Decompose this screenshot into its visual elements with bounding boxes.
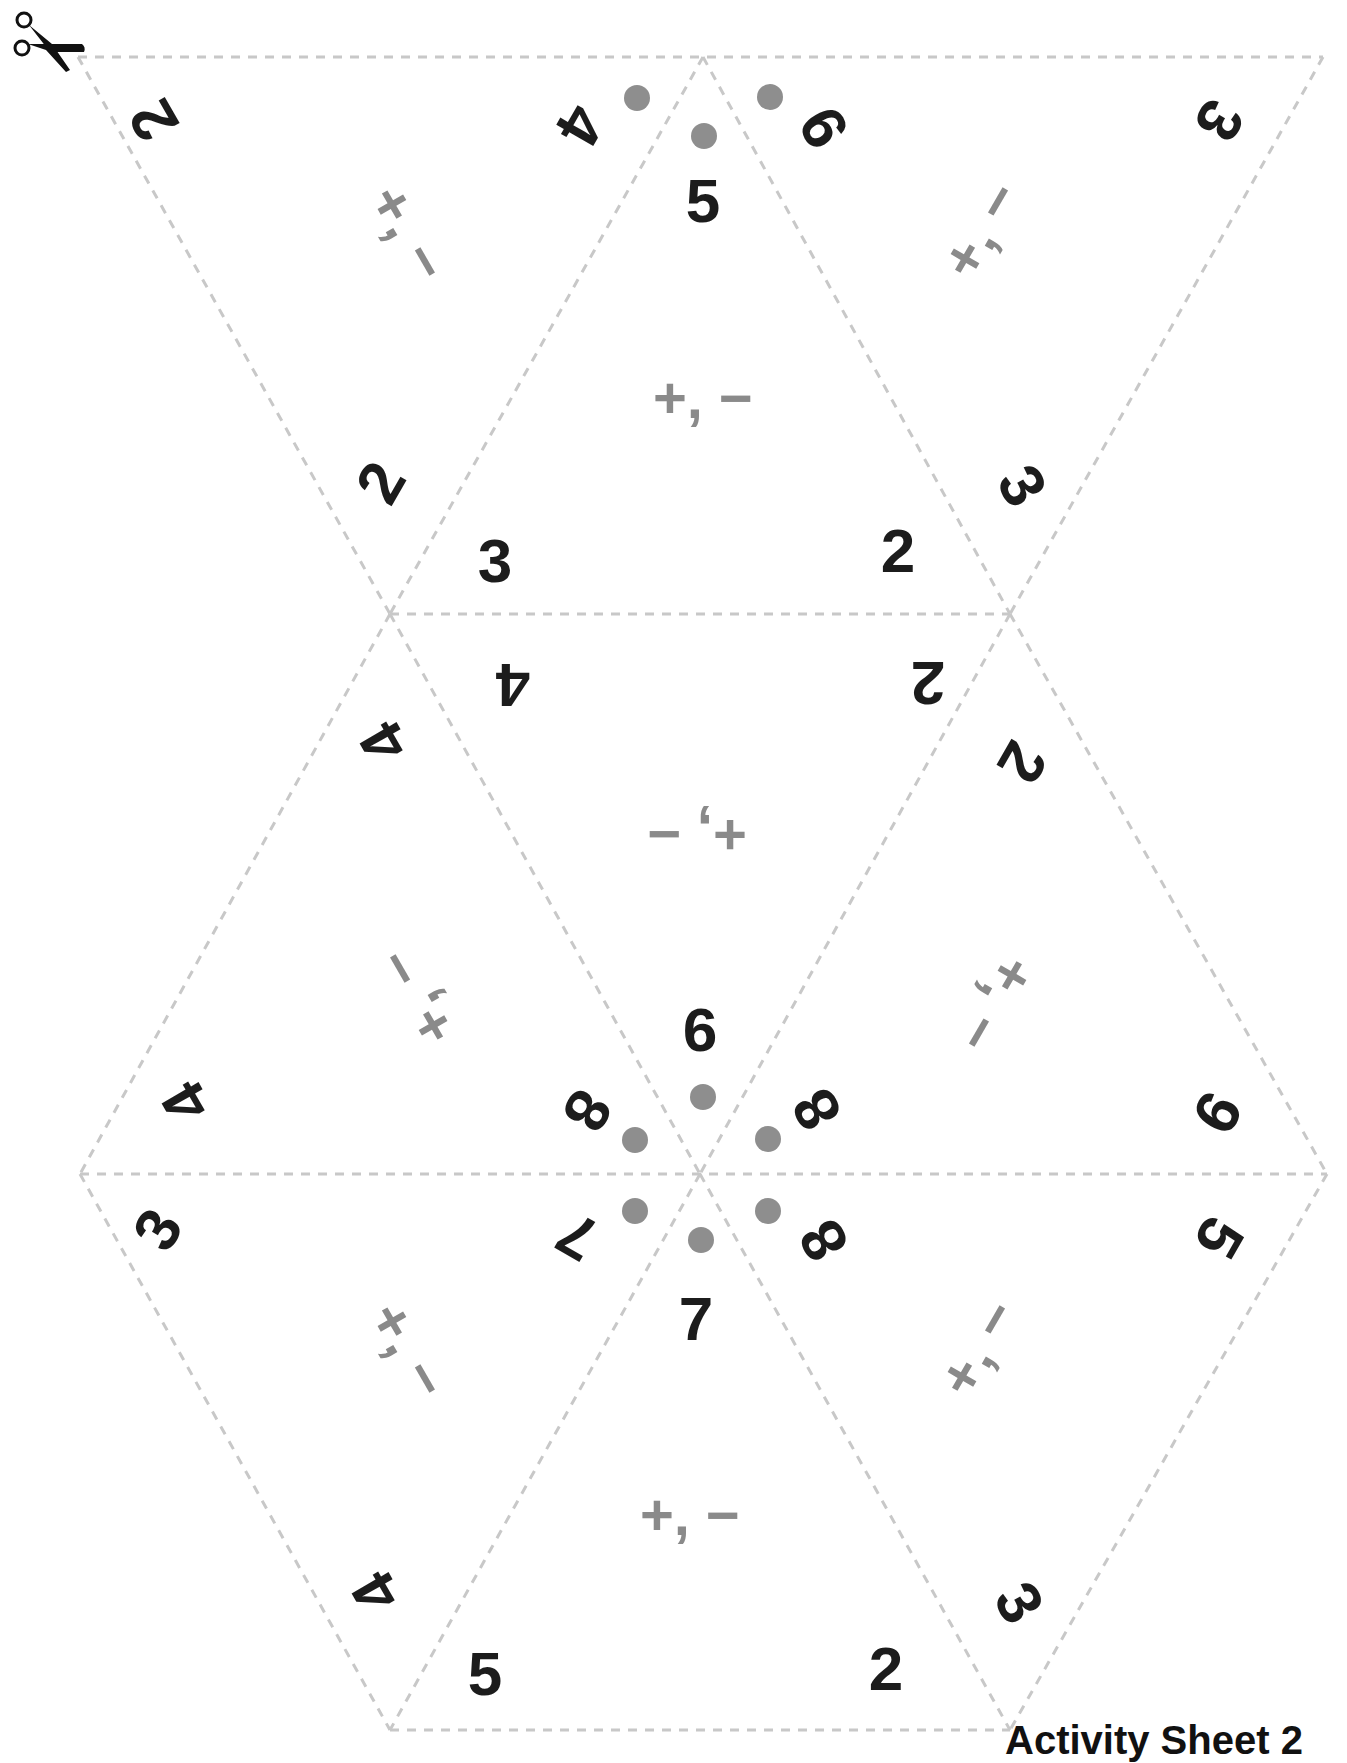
- corner-number: 9: [785, 95, 862, 159]
- corner-number: 2: [115, 88, 192, 152]
- corner-number: 8: [549, 1078, 626, 1142]
- operator-label: +, −: [924, 1288, 1030, 1407]
- corner-number: 7: [545, 1198, 609, 1275]
- corner-number: 3: [119, 1197, 196, 1261]
- triangle-1: 2 4 2 +, −: [115, 88, 619, 514]
- corner-number: 5: [468, 1639, 502, 1708]
- corner-number: 3: [1181, 88, 1258, 152]
- corner-number: 2: [881, 516, 915, 585]
- corner-number: 7: [679, 1284, 713, 1353]
- corner-number: 3: [478, 526, 512, 595]
- operator-label: +, −: [943, 945, 1049, 1064]
- triangle-6: 2 8 9 +, −: [778, 730, 1256, 1144]
- triangle-8: 7 5 2 +, −: [468, 1284, 903, 1708]
- activity-sheet-label: Activity Sheet 2: [1005, 1718, 1303, 1763]
- cut-lines: [78, 57, 1327, 1730]
- triangle-9: 8 5 3 +, −: [785, 1205, 1258, 1634]
- operator-label: +, −: [927, 170, 1033, 289]
- corner-number: 9: [1179, 1080, 1256, 1144]
- operator-label: +, −: [356, 173, 462, 292]
- corner-number: 4: [147, 1070, 224, 1135]
- triangle-2: 5 3 2 +, −: [478, 166, 915, 595]
- corner-number: 2: [911, 649, 945, 718]
- corner-number: 5: [686, 166, 720, 235]
- corner-number: 2: [984, 730, 1061, 794]
- operator-label: +, −: [647, 803, 747, 868]
- corner-number: 2: [342, 450, 419, 514]
- scissors-icon: [15, 13, 85, 72]
- operator-label: +, −: [362, 938, 468, 1057]
- corner-number: 3: [984, 453, 1061, 517]
- corner-number: 4: [337, 1560, 414, 1625]
- corner-number: 8: [785, 1208, 862, 1272]
- triangle-7: 3 7 4 +, −: [119, 1197, 610, 1624]
- triangle-5: 4 8 4 +, −: [147, 710, 626, 1143]
- corner-number: 4: [495, 651, 530, 720]
- triangle-3: 9 3 3 +, −: [785, 88, 1258, 517]
- operator-label: +, −: [356, 1290, 462, 1409]
- corner-number: 5: [1181, 1205, 1258, 1269]
- corner-number: 2: [869, 1634, 903, 1703]
- operator-label: +, −: [653, 365, 753, 430]
- corner-number: 4: [542, 93, 619, 158]
- corner-number: 8: [778, 1077, 855, 1141]
- corner-number: 4: [345, 710, 422, 775]
- corner-number: 3: [981, 1570, 1058, 1634]
- operator-label: +, −: [640, 1482, 740, 1547]
- triangle-4: 4 2 9 +, −: [495, 649, 945, 1065]
- corner-number: 9: [683, 996, 717, 1065]
